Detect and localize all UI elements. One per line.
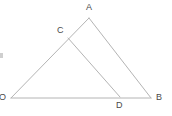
segments-group: [11, 18, 151, 98]
segment-OA: [11, 18, 89, 98]
left-edge-artifact: [0, 53, 3, 58]
geometry-figure: A C O D B: [0, 0, 172, 116]
vertex-label-C: C: [57, 26, 64, 35]
vertex-label-A: A: [86, 3, 92, 12]
segment-AB: [89, 18, 151, 98]
figure-canvas: [0, 0, 172, 116]
vertex-label-O: O: [0, 93, 6, 102]
segment-CD: [68, 38, 120, 97]
vertex-label-D: D: [116, 101, 123, 110]
vertex-label-B: B: [156, 93, 162, 102]
